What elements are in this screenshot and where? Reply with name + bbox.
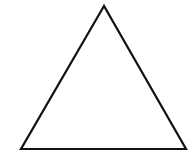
diagram-canvas <box>0 0 189 166</box>
triangle-shape <box>21 6 186 149</box>
